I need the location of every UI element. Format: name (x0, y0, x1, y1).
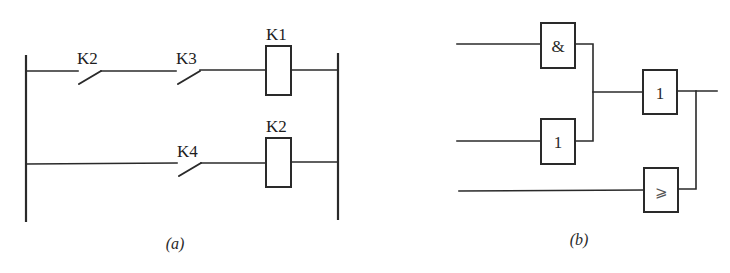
caption-a: (a) (166, 235, 185, 253)
rung-2-wire-start (26, 163, 177, 164)
merge-bus (575, 44, 593, 141)
contact-k3-blade (178, 71, 200, 84)
and-gate: & (541, 23, 575, 68)
diagram-canvas: K2 K3 K1 K4 K2 (0, 0, 730, 273)
threshold-gate: ⩾ (644, 168, 678, 212)
contact-k3-label: K3 (176, 49, 197, 68)
rung-1: K2 K3 K1 (26, 25, 338, 95)
threshold-gate-symbol: ⩾ (655, 184, 668, 200)
contact-k3: K3 (176, 49, 200, 84)
coil-k1: K1 (266, 25, 291, 95)
logic-diagram: & 1 1 ⩾ (b) (457, 23, 717, 249)
or-gate-output-symbol: 1 (656, 84, 665, 103)
caption-b: (b) (570, 231, 589, 249)
contact-k4-label: K4 (177, 142, 198, 161)
contact-k4: K4 (177, 142, 201, 176)
ladder-diagram: K2 K3 K1 K4 K2 (26, 25, 338, 253)
contact-k4-blade (179, 163, 201, 176)
or-gate-lower-symbol: 1 (554, 133, 563, 152)
coil-k2-label: K2 (266, 117, 287, 136)
contact-k2-label: K2 (77, 49, 98, 68)
or-gate-lower: 1 (541, 119, 575, 164)
coil-k2-box (266, 138, 291, 187)
coil-k1-box (266, 46, 291, 95)
and-gate-symbol: & (551, 37, 564, 56)
or-gate-output: 1 (643, 70, 677, 114)
rung-2: K4 K2 (26, 117, 338, 187)
contact-k2-blade (79, 71, 101, 84)
contact-k2: K2 (77, 49, 101, 84)
coil-k1-label: K1 (266, 25, 287, 44)
threshold-feedback-wire (678, 91, 696, 189)
input-line-3 (459, 190, 644, 191)
coil-k2: K2 (266, 117, 291, 187)
